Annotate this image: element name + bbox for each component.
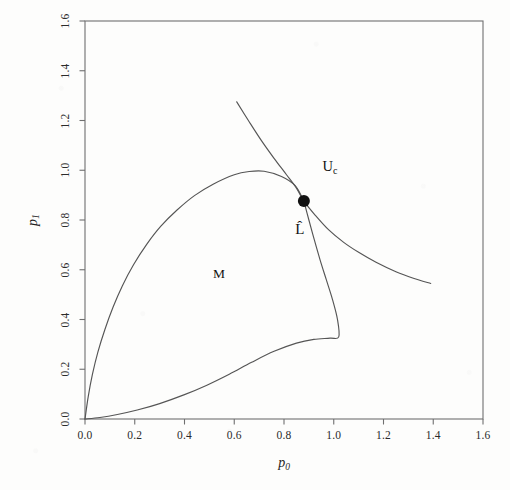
x-tick-label-4: 0.8 [277,429,292,441]
figure-container: 0.00.20.40.60.81.01.21.41.60.00.20.40.60… [0,0,510,490]
annotation-l-hat: L̂ [295,221,304,238]
y-tick-label-0: 0.0 [59,412,71,427]
plot-canvas [0,0,510,490]
x-tick-label-8: 1.6 [476,429,491,441]
intersection-point [298,195,310,207]
x-tick-label-2: 0.4 [177,429,192,441]
x-axis-title: p0 [278,455,290,472]
x-tick-label-0: 0.0 [78,429,93,441]
y-tick-label-3: 0.6 [59,262,71,277]
curve-loop-upper-branch [85,171,304,419]
x-tick-label-5: 1.0 [326,429,341,441]
curve-descending-curve [237,102,431,284]
x-tick-label-7: 1.4 [426,429,441,441]
y-tick-label-2: 0.4 [59,312,71,327]
y-tick-label-6: 1.2 [59,113,71,128]
annotation-uc: Uc [323,158,338,176]
plot-frame [85,21,483,419]
y-tick-label-8: 1.6 [59,14,71,29]
y-axis-title: p1 [25,214,42,226]
x-tick-label-3: 0.6 [227,429,242,441]
x-tick-label-6: 1.2 [376,429,391,441]
y-tick-label-4: 0.8 [59,213,71,228]
annotation-region-m: M [213,266,225,282]
x-tick-label-1: 0.2 [127,429,142,441]
y-tick-label-7: 1.4 [59,63,71,78]
y-tick-label-5: 1.0 [59,163,71,178]
y-tick-label-1: 0.2 [59,362,71,377]
